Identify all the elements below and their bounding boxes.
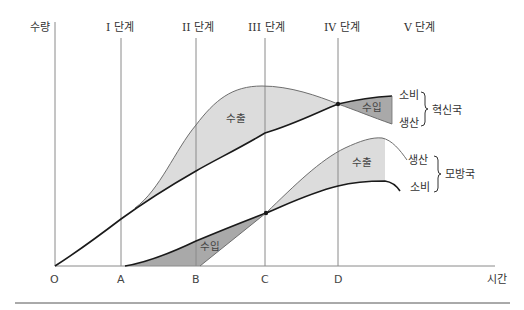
intersection-point-c bbox=[264, 211, 268, 215]
y-axis-label: 수량 bbox=[30, 21, 50, 34]
innovator-group-label: 혁신국 bbox=[432, 104, 462, 117]
innovator-export-label: 수출 bbox=[226, 112, 246, 124]
time-point-d: D bbox=[334, 273, 342, 286]
product-life-cycle-diagram: 수량 시간 O A B C D I 단계 II 단계 III 단계 IV 단계 … bbox=[0, 0, 524, 310]
imitator-import-label: 수입 bbox=[200, 240, 220, 252]
origin-label: O bbox=[50, 273, 59, 286]
x-axis-label: 시간 bbox=[487, 273, 507, 286]
innovator-import-label: 수입 bbox=[362, 101, 382, 113]
stage-label-5: V 단계 bbox=[403, 21, 435, 34]
intersection-point-d bbox=[336, 102, 340, 106]
imitator-production-label: 생산 bbox=[408, 154, 428, 167]
stage-label-2: II 단계 bbox=[182, 21, 214, 34]
imitator-export-area bbox=[266, 138, 385, 213]
time-point-c: C bbox=[261, 273, 269, 286]
imitator-consumption-curve bbox=[125, 181, 400, 266]
imitator-export-label: 수출 bbox=[352, 156, 372, 168]
imitator-group-label: 모방국 bbox=[445, 168, 475, 181]
imitator-consumption-label: 소비 bbox=[410, 181, 430, 194]
innovator-production-label: 생산 bbox=[399, 117, 419, 130]
innovator-brace bbox=[421, 92, 428, 126]
imitator-brace bbox=[434, 156, 441, 192]
time-point-b: B bbox=[192, 273, 200, 286]
time-point-a: A bbox=[117, 273, 125, 286]
innovator-consumption-label: 소비 bbox=[399, 89, 419, 102]
stage-label-3: III 단계 bbox=[248, 21, 285, 34]
stage-label-1: I 단계 bbox=[106, 21, 134, 34]
stage-label-4: IV 단계 bbox=[324, 21, 360, 34]
